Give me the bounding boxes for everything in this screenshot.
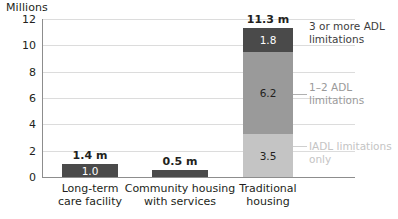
legend-label-line1: 1–2 ADL: [309, 81, 395, 94]
category-label-long-term-care-facility: Long-term care facility: [50, 182, 130, 208]
bar-segment-adl3-3: 1.8: [243, 28, 293, 52]
legend-leader-line-2: [293, 94, 307, 95]
y-tick-2: 2: [2, 145, 36, 158]
category-label-line2: care facility: [50, 195, 130, 208]
bar-long-term-care-facility: 1.4 m 1.0: [62, 164, 118, 177]
legend-label-line1: 3 or more ADL: [309, 20, 395, 33]
bar-total-label-1: 1.4 m: [62, 149, 118, 162]
category-label-line1: Traditional: [228, 182, 308, 195]
gridline-8: [42, 72, 355, 73]
category-label-community-housing-with-services: Community housing with services: [122, 182, 238, 208]
category-label-traditional-housing: Traditional housing: [228, 182, 308, 208]
y-tick-8: 8: [2, 66, 36, 79]
legend-label-line1: IADL limitations: [309, 140, 398, 153]
y-tick-6: 6: [2, 92, 36, 105]
gridline-4: [42, 124, 355, 125]
legend-label-line2: limitations: [309, 94, 395, 107]
y-tick-10: 10: [2, 39, 36, 52]
category-label-line2: housing: [228, 195, 308, 208]
bar-community-housing-with-services: 0.5 m: [152, 170, 208, 177]
bar-segment-adl12-3: 6.2: [243, 52, 293, 134]
legend-label-line2: limitations: [309, 33, 395, 46]
y-tick-12: 12: [2, 13, 36, 26]
legend-item-3-or-more-adl-limitations: 3 or more ADL limitations: [309, 20, 395, 45]
y-tick-0: 0: [2, 171, 36, 184]
legend-item-1-2-adl-limitations: 1–2 ADL limitations: [309, 81, 395, 106]
legend-label-line2: only: [309, 153, 398, 166]
gridline-10: [42, 45, 355, 46]
legend-item-iadl-limitations-only: IADL limitations only: [309, 140, 398, 165]
bar-segment-iadl-3: 3.5: [243, 134, 293, 177]
bar-total-label-3: 11.3 m: [243, 13, 293, 26]
category-label-line1: Community housing: [122, 182, 238, 195]
category-label-line2: with services: [122, 195, 238, 208]
category-label-line1: Long-term: [50, 182, 130, 195]
bar-segment-adl-2: [152, 170, 208, 177]
y-axis-line: [42, 19, 43, 178]
bar-total-label-2: 0.5 m: [152, 155, 208, 168]
stacked-bar-chart: Millions 12 10 8 6 4 2 0 1.4 m 1.0 0.5 m…: [0, 0, 398, 219]
bar-segment-adl3-1: 1.0: [62, 164, 118, 177]
x-axis-line: [42, 177, 355, 178]
bar-traditional-housing: 11.3 m 1.8 6.2 3.5: [243, 28, 293, 177]
y-tick-4: 4: [2, 118, 36, 131]
legend-leader-line-3: [293, 146, 307, 147]
